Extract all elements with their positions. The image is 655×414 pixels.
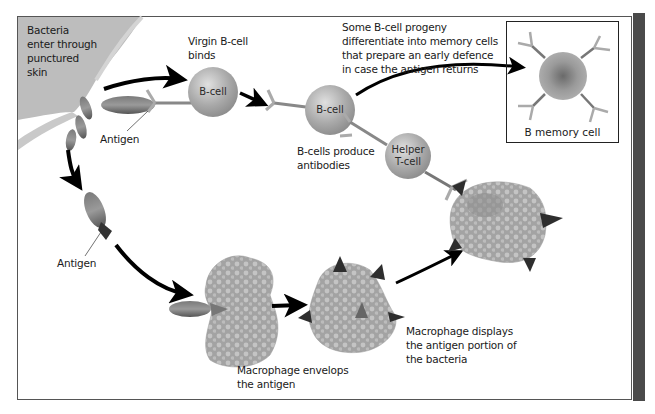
antibody: [147, 90, 192, 112]
label-antigen-left: Antigen: [57, 256, 96, 270]
bacterium: [101, 96, 155, 114]
memory-cell-label: B memory cell: [507, 126, 618, 138]
arrow-mac1-to-mac2: [272, 305, 300, 306]
bacterium-left: [80, 189, 111, 231]
antigen-pointer-left: [85, 232, 101, 256]
arrow-to-macrophage: [116, 245, 186, 294]
helper-tcell-label: Helper T-cell: [386, 144, 430, 168]
label-antigen-top: Antigen: [100, 132, 139, 146]
macrophage-displays: [450, 182, 546, 263]
antigen-triangle: [98, 222, 112, 240]
arrow-mac2-to-mac3: [396, 253, 458, 283]
antigen-pointer: [127, 111, 148, 131]
label-macrophage-displays: Macrophage displays the antigen portion …: [406, 324, 516, 366]
enveloped-bacterium: [169, 301, 211, 317]
arrow-down: [68, 150, 78, 184]
label-bcells-produce: B-cells produce antibodies: [297, 144, 375, 172]
label-virgin-bcell: Virgin B-cell binds: [188, 34, 248, 62]
bcell-1-label: B-cell: [193, 86, 233, 98]
label-macrophage-envelops: Macrophage envelops the antigen: [237, 363, 348, 391]
bcell-2-label: B-cell: [310, 104, 350, 116]
antibody-free: [266, 90, 306, 110]
label-memory-note: Some B-cell progeny differentiate into m…: [342, 20, 498, 76]
antibodies-produced: [340, 112, 387, 145]
arrow-bcell-to-antibodies: [240, 93, 262, 103]
arrow-to-bcell: [104, 78, 180, 89]
memory-cell-box: B memory cell: [506, 21, 619, 143]
label-bacteria-enter: Bacteria enter through punctured skin: [27, 23, 97, 79]
